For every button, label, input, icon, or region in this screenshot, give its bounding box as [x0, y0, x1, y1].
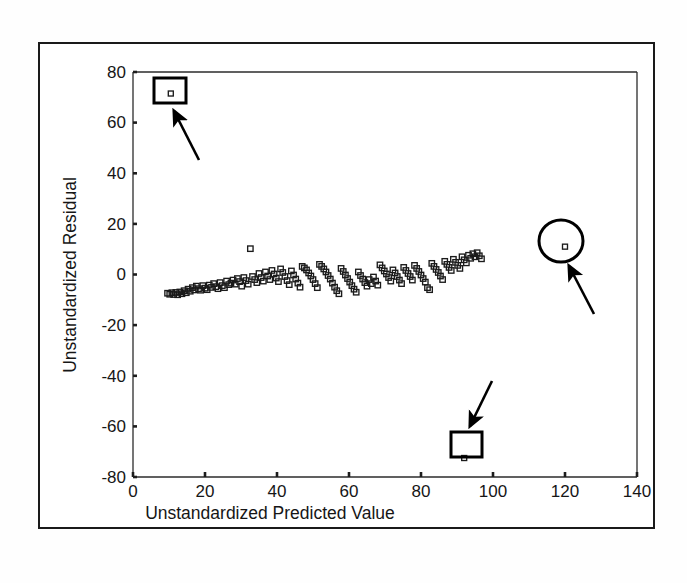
x-axis-ticks — [133, 472, 637, 477]
y-tick-label: -80 — [101, 468, 126, 487]
y-tick-label: 0 — [117, 265, 126, 284]
scatter-plot: 80 60 40 20 0 -20 -40 -60 -80 0 20 40 60… — [0, 0, 687, 583]
annotation-rect-bottom-outlier — [451, 432, 482, 457]
x-tick-label: 120 — [551, 482, 579, 501]
x-tick-label: 40 — [268, 482, 287, 501]
x-tick-label: 60 — [340, 482, 359, 501]
annotation-arrow-bottom-outlier — [470, 381, 492, 426]
y-axis-tick-labels: 80 60 40 20 0 -20 -40 -60 -80 — [101, 63, 126, 487]
data-point-outlier — [168, 91, 173, 96]
annotation-circle-right-outlier — [539, 220, 583, 262]
y-axis-title: Unstandardized Residual — [60, 177, 80, 373]
y-tick-label: -60 — [101, 417, 126, 436]
data-point-outlier — [563, 244, 568, 249]
y-tick-label: -20 — [101, 316, 126, 335]
y-tick-label: -40 — [101, 367, 126, 386]
x-axis-tick-labels: 0 20 40 60 80 100 120 140 — [128, 482, 651, 501]
x-tick-label: 80 — [412, 482, 431, 501]
y-tick-label: 60 — [107, 113, 126, 132]
x-tick-label: 20 — [196, 482, 215, 501]
x-axis-title: Unstandardized Predicted Value — [145, 503, 395, 523]
figure-container: 80 60 40 20 0 -20 -40 -60 -80 0 20 40 60… — [0, 0, 687, 583]
data-point-group — [165, 91, 568, 461]
plot-panel-border — [133, 72, 637, 477]
y-tick-label: 80 — [107, 63, 126, 82]
x-tick-label: 100 — [479, 482, 507, 501]
annotation-arrow-top-outlier — [174, 111, 199, 160]
annotation-arrow-right-outlier — [569, 266, 594, 314]
x-tick-label: 0 — [128, 482, 137, 501]
y-tick-label: 20 — [107, 215, 126, 234]
data-point — [248, 246, 253, 251]
y-tick-label: 40 — [107, 164, 126, 183]
x-tick-label: 140 — [623, 482, 651, 501]
